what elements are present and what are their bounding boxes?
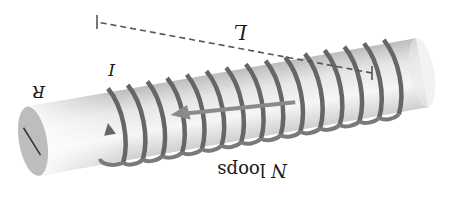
current-label: I	[108, 60, 116, 80]
length-label: L	[234, 20, 248, 44]
loops-var: N	[270, 160, 288, 181]
radius-label: R	[32, 82, 46, 102]
solenoid-diagram: L I R N loops	[0, 0, 455, 214]
loops-label: N loops	[217, 160, 288, 181]
loops-word: loops	[217, 160, 271, 181]
